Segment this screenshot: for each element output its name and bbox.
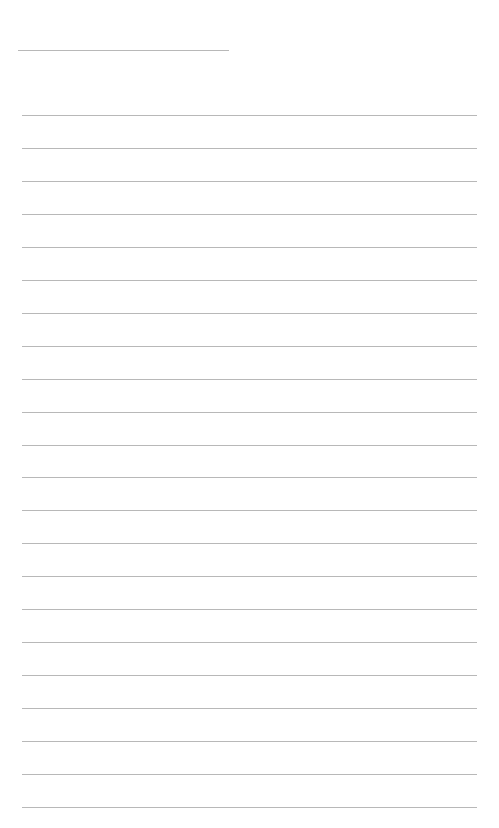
writing-rule	[22, 510, 477, 511]
writing-rule	[22, 379, 477, 380]
writing-rule	[22, 346, 477, 347]
writing-rule	[22, 115, 477, 116]
writing-rule	[22, 774, 477, 775]
writing-rule	[22, 477, 477, 478]
writing-rule	[22, 741, 477, 742]
title-line	[18, 50, 229, 51]
writing-rule	[22, 313, 477, 314]
writing-rule	[22, 148, 477, 149]
writing-rule	[22, 445, 477, 446]
writing-rule	[22, 247, 477, 248]
writing-rule	[22, 280, 477, 281]
writing-rule	[22, 214, 477, 215]
writing-rule	[22, 609, 477, 610]
writing-rule	[22, 181, 477, 182]
writing-rule	[22, 576, 477, 577]
writing-rule	[22, 543, 477, 544]
writing-rule	[22, 642, 477, 643]
writing-rule	[22, 708, 477, 709]
writing-rule	[22, 412, 477, 413]
writing-rule	[22, 675, 477, 676]
writing-rule	[22, 807, 477, 808]
